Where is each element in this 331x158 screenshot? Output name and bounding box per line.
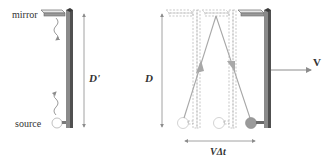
- light-wave-up-icon: [54, 92, 58, 115]
- light-clock-diagram: mirror source D' D V VΔt: [0, 0, 331, 158]
- source-label: source: [15, 118, 42, 129]
- mirror-icon: [238, 10, 264, 16]
- light-path: [184, 16, 250, 118]
- moving-clock: [162, 8, 311, 141]
- distance-label-prime: D': [88, 72, 100, 84]
- light-wave-down-icon: [54, 18, 58, 40]
- clock-wall: [264, 8, 271, 128]
- mirror-icon: [41, 10, 65, 16]
- displacement-label: VΔt: [210, 146, 227, 157]
- ghost-clock-2: [202, 10, 236, 129]
- light-source-icon: [52, 118, 66, 128]
- arrow-down-icon: [227, 61, 235, 72]
- light-source-icon: [246, 118, 265, 129]
- velocity-label: V: [313, 56, 321, 68]
- distance-label: D: [144, 72, 153, 84]
- mirror-label: mirror: [12, 9, 38, 20]
- clock-wall: [66, 8, 73, 128]
- ghost-clock-1: [166, 10, 200, 129]
- stationary-clock: [41, 8, 84, 128]
